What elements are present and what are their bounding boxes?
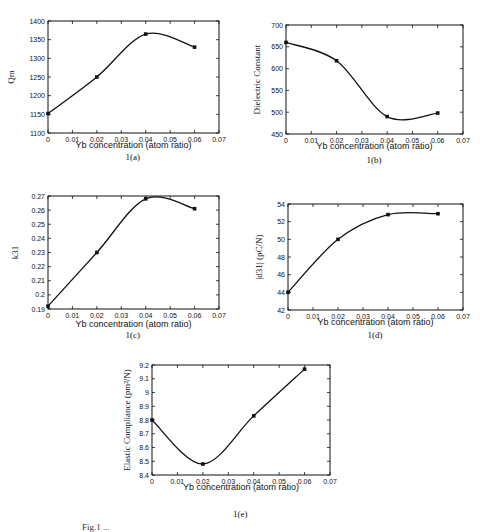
y-tick-label: 9 <box>145 389 149 396</box>
data-point-marker <box>303 367 307 371</box>
figure-caption: Fig.1 ... <box>82 522 110 532</box>
y-tick-label: 9.2 <box>139 362 149 369</box>
y-tick-label: 8.6 <box>139 444 149 451</box>
x-tick-label: 0 <box>150 478 154 485</box>
y-tick-label: 8.4 <box>139 472 149 479</box>
y-tick-label: 9.1 <box>139 375 149 382</box>
plot-frame <box>152 365 330 475</box>
x-tick-label: 0.06 <box>298 478 312 485</box>
data-point-marker <box>150 418 154 422</box>
data-point-marker <box>252 414 256 418</box>
x-tick-label: 0.07 <box>323 478 337 485</box>
y-tick-label: 8.8 <box>139 417 149 424</box>
data-line <box>152 369 305 464</box>
data-point-marker <box>201 462 205 466</box>
x-axis-label: Yb concentration (atom ratio) <box>183 482 299 492</box>
y-tick-label: 8.5 <box>139 458 149 465</box>
panel-label: 1(e) <box>233 509 248 519</box>
y-axis-label: Elastic Compliance (pm²/N) <box>122 369 132 471</box>
y-tick-label: 8.9 <box>139 403 149 410</box>
y-tick-label: 8.7 <box>139 430 149 437</box>
